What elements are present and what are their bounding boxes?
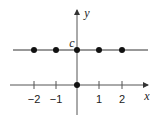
x-tick-label: −1 (50, 93, 63, 105)
x-tick-label: 2 (119, 93, 125, 105)
x-axis-label: x (143, 89, 150, 103)
x-tick-label: 1 (96, 93, 102, 105)
constant-function-graph: −2 −1 1 2 x y c (0, 0, 161, 120)
origin-point (74, 82, 80, 88)
x-tick-label: −2 (28, 93, 41, 105)
constant-label: c (69, 36, 75, 50)
y-axis-label: y (83, 6, 90, 20)
